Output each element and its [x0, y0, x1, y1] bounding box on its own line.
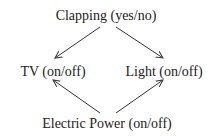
- edge-clapping-light: [116, 27, 163, 58]
- node-tv: TV (on/off): [20, 64, 85, 80]
- node-light: Light (on/off): [125, 64, 202, 80]
- edge-power-tv: [53, 80, 100, 113]
- node-electric-power: Electric Power (on/off): [42, 116, 172, 132]
- edge-clapping-tv: [55, 27, 100, 58]
- node-clapping: Clapping (yes/no): [56, 8, 157, 24]
- edge-power-light: [116, 80, 163, 113]
